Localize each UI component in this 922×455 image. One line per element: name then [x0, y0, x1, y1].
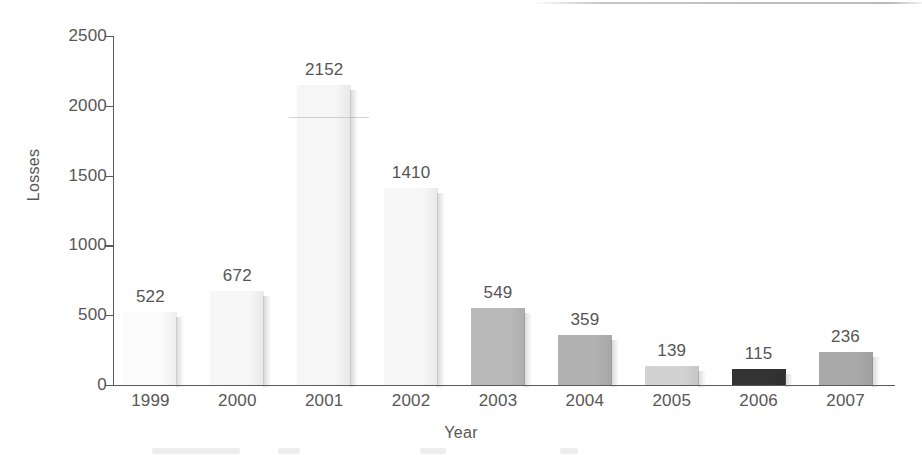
x-axis-tick-label: 2000	[218, 391, 257, 411]
x-axis-tick-label: 2003	[479, 391, 518, 411]
scan-artifact-line	[530, 2, 922, 4]
bar-drop-shadow	[698, 371, 706, 387]
bar-drop-shadow	[524, 313, 532, 387]
bar[interactable]: 115	[732, 369, 786, 385]
bar-fill	[558, 335, 612, 385]
bar-value-label: 236	[831, 327, 860, 347]
bar-value-label: 522	[136, 287, 165, 307]
x-axis-tick-label: 2002	[392, 391, 431, 411]
plot-area: 05001000150020002500 5226722152141054935…	[113, 36, 895, 385]
bar-value-label: 2152	[305, 60, 344, 80]
x-axis-title: Year	[0, 424, 922, 442]
bar[interactable]: 672	[210, 291, 264, 385]
bar-drop-shadow	[785, 374, 793, 387]
y-axis-tick-label: 2500	[68, 26, 107, 46]
bar-fill	[732, 369, 786, 385]
bar[interactable]: 549	[471, 308, 525, 385]
bar-fill	[384, 188, 438, 385]
x-axis-tick-label: 1999	[131, 391, 170, 411]
bar-fill	[297, 85, 351, 385]
bar-value-label: 115	[745, 344, 773, 364]
x-axis-tick-label: 2006	[739, 391, 778, 411]
bar-drop-shadow	[611, 340, 619, 387]
x-axis-tick-label: 2004	[566, 391, 605, 411]
bar-fill	[210, 291, 264, 385]
bar-drop-shadow	[350, 90, 358, 387]
bar-value-label: 139	[657, 341, 686, 361]
y-axis-tick-label: 2000	[68, 96, 107, 116]
bar-value-label: 549	[484, 283, 513, 303]
y-axis-tick-label: 1000	[68, 235, 107, 255]
y-axis-title: Losses	[25, 149, 43, 202]
scan-artifact-smudge	[278, 448, 300, 454]
scan-artifact-smudge	[152, 448, 240, 454]
bar[interactable]: 1410	[384, 188, 438, 385]
bar[interactable]: 139	[645, 366, 699, 385]
bar-drop-shadow	[263, 296, 271, 387]
bar[interactable]: 359	[558, 335, 612, 385]
y-axis-line	[113, 36, 114, 385]
scan-artifact-smudge	[560, 448, 578, 454]
bar-value-label: 672	[223, 266, 252, 286]
bar[interactable]: 2152	[297, 85, 351, 385]
x-axis-tick-label: 2007	[826, 391, 865, 411]
x-axis-line	[113, 385, 895, 386]
bar[interactable]: 522	[123, 312, 177, 385]
bar-value-label: 1410	[392, 163, 431, 183]
x-axis-tick-label: 2005	[652, 391, 691, 411]
bar-fill	[123, 312, 177, 385]
bar-drop-shadow	[872, 357, 880, 387]
y-axis-tick-label: 1500	[68, 166, 107, 186]
bar-chart: Losses Year 05001000150020002500 5226722…	[0, 0, 922, 455]
residual-gridline	[289, 117, 369, 118]
y-axis-tick-label: 500	[78, 305, 107, 325]
bar-fill	[471, 308, 525, 385]
bar-drop-shadow	[437, 193, 445, 387]
bar-value-label: 359	[570, 310, 599, 330]
scan-artifact-smudge	[420, 448, 446, 454]
bar-fill	[645, 366, 699, 385]
y-axis-tick-label: 0	[97, 375, 107, 395]
bar[interactable]: 236	[819, 352, 873, 385]
bar-fill	[819, 352, 873, 385]
x-axis-tick-label: 2001	[305, 391, 344, 411]
bar-drop-shadow	[176, 317, 184, 387]
